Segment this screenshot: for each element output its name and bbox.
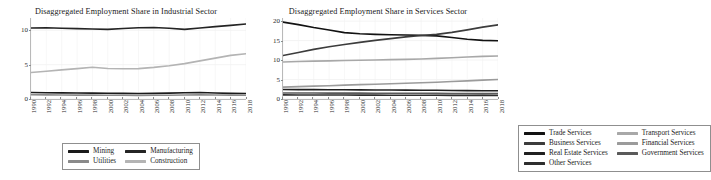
legend-label: Government Services (642, 149, 704, 158)
legend-swatch-icon (524, 162, 545, 165)
legend-item-real-estate-services[interactable]: Real Estate Services (524, 149, 608, 158)
plot-area-industrial: 0510 (30, 18, 246, 100)
x-axis-services: 1990199219941996199820002002200420062008… (282, 100, 498, 138)
y-tick-label: 20 (273, 17, 280, 25)
legend-swatch-icon (125, 150, 146, 153)
y-tick-label: 5 (277, 76, 281, 84)
legend-item-utilities[interactable]: Utilities (68, 157, 116, 166)
legend-services: Trade ServicesBusiness ServicesReal Esta… (518, 125, 711, 172)
legend-swatch-icon (524, 132, 545, 135)
legend-swatch-icon (524, 152, 545, 155)
x-tick-label: 1996 (75, 100, 82, 113)
legend-label: Manufacturing (150, 147, 193, 156)
y-tick-label: 0 (277, 95, 281, 103)
x-tick-label: 2014 (466, 100, 473, 113)
x-tick-label: 2016 (230, 100, 237, 113)
x-tick-label: 2000 (106, 100, 113, 113)
x-tick-label: 1994 (312, 100, 319, 113)
legend-item-government-services[interactable]: Government Services (617, 149, 704, 158)
line-chart-services (283, 18, 498, 99)
legend-label: Trade Services (549, 129, 592, 138)
series-line-other-services (283, 95, 498, 96)
x-tick-label: 2008 (168, 100, 175, 113)
x-tick-label: 2000 (358, 100, 365, 113)
legend-label: Mining (93, 147, 114, 156)
panel-services: Disaggregated Employment Share in Servic… (252, 0, 504, 180)
legend-item-manufacturing[interactable]: Manufacturing (125, 147, 193, 156)
x-tick-label: 2006 (405, 100, 412, 113)
x-tick-label: 2002 (122, 100, 129, 113)
legend-swatch-icon (125, 160, 146, 163)
y-tick-label: 10 (21, 26, 28, 34)
legend-industrial: MiningUtilitiesManufacturingConstruction (62, 143, 200, 170)
legend-swatch-icon (524, 142, 545, 145)
legend-item-business-services[interactable]: Business Services (524, 139, 608, 148)
x-tick-label: 1990 (281, 100, 288, 113)
y-tick-label: 10 (273, 56, 280, 64)
y-tick-label: 0 (25, 95, 29, 103)
legend-item-construction[interactable]: Construction (125, 157, 193, 166)
x-tick-label: 1992 (297, 100, 304, 113)
y-tick-label: 5 (25, 61, 29, 69)
legend-label: Real Estate Services (549, 149, 608, 158)
legend-label: Financial Services (642, 139, 695, 148)
legend-swatch-icon (617, 152, 638, 155)
x-tick-label: 1990 (29, 100, 36, 113)
legend-item-trade-services[interactable]: Trade Services (524, 129, 608, 138)
legend-item-other-services[interactable]: Other Services (524, 159, 608, 168)
legend-label: Transport Services (642, 129, 696, 138)
x-tick-label: 2012 (199, 100, 206, 113)
legend-label: Utilities (93, 157, 116, 166)
legend-item-transport-services[interactable]: Transport Services (617, 129, 704, 138)
series-line-real-estate-services (283, 89, 498, 90)
x-tick-label: 2006 (153, 100, 160, 113)
legend-swatch-icon (68, 150, 89, 153)
x-tick-label: 1996 (327, 100, 334, 113)
x-tick-label: 1998 (91, 100, 98, 113)
x-tick-label: 2010 (183, 100, 190, 113)
series-line-government-services (283, 93, 498, 94)
x-tick-label: 2012 (451, 100, 458, 113)
x-tick-label: 2016 (482, 100, 489, 113)
x-axis-industrial: 1990199219941996199820002002200420062008… (30, 100, 246, 138)
legend-item-mining[interactable]: Mining (68, 147, 116, 156)
x-tick-label: 2002 (374, 100, 381, 113)
legend-item-financial-services[interactable]: Financial Services (617, 139, 704, 148)
legend-swatch-icon (617, 132, 638, 135)
line-chart-industrial (31, 18, 246, 99)
legend-swatch-icon (617, 142, 638, 145)
legend-label: Other Services (549, 159, 592, 168)
x-tick-label: 2008 (420, 100, 427, 113)
x-tick-label: 2014 (214, 100, 221, 113)
x-tick-label: 1994 (60, 100, 67, 113)
legend-swatch-icon (68, 160, 89, 163)
legend-label: Business Services (549, 139, 601, 148)
x-tick-label: 2018 (497, 100, 504, 113)
legend-label: Construction (150, 157, 187, 166)
plot-wrap-services: 05101520 (252, 18, 504, 100)
plot-area-services: 05101520 (282, 18, 498, 100)
x-tick-label: 1992 (45, 100, 52, 113)
chart-title-industrial: Disaggregated Employment Share in Indust… (0, 7, 252, 16)
y-tick-label: 15 (273, 37, 280, 45)
chart-title-services: Disaggregated Employment Share in Servic… (252, 7, 504, 16)
x-tick-label: 2004 (137, 100, 144, 113)
panel-industrial: Disaggregated Employment Share in Indust… (0, 0, 252, 180)
series-line-utilities (31, 95, 246, 96)
plot-wrap-industrial: 0510 (0, 18, 252, 100)
x-tick-label: 1998 (343, 100, 350, 113)
x-tick-label: 2010 (435, 100, 442, 113)
x-tick-label: 2004 (389, 100, 396, 113)
